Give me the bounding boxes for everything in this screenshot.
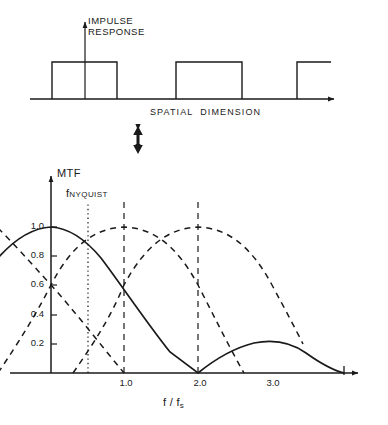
frequency-ratio-main: f / f	[163, 396, 180, 408]
y-tick-label-0-2: 0.2	[22, 337, 44, 348]
spatial-dimension-axis-label: SPATIAL DIMENSION	[150, 107, 261, 117]
impulse-response-line2: RESPONSE	[88, 26, 145, 37]
fourier-transform-double-arrow	[133, 126, 143, 154]
impulse-response-line1: IMPULSE	[88, 15, 133, 26]
mtf-chart-panel	[0, 176, 358, 375]
x-tick-label-2-0: 2.0	[185, 377, 215, 388]
figure-svg	[0, 0, 388, 425]
series-alias-descending-left	[0, 228, 124, 373]
frequency-ratio-subscript: s	[180, 401, 184, 410]
impulse-response-axis-label: IMPULSERESPONSE	[88, 15, 145, 37]
frequency-ratio-axis-label: f / fs	[163, 396, 184, 410]
x-tick-label-3-0: 3.0	[258, 377, 288, 388]
y-tick-label-0-6: 0.6	[22, 278, 44, 289]
series-alias-replica-2	[73, 227, 303, 373]
figure-root: IMPULSERESPONSE SPATIAL DIMENSION MTF fN…	[0, 0, 388, 425]
y-tick-label-1-0: 1.0	[22, 220, 44, 231]
impulse-pulse-3	[297, 62, 331, 99]
impulse-response-panel	[30, 22, 334, 99]
x-tick-label-1-0: 1.0	[111, 377, 141, 388]
impulse-pulse-2	[176, 62, 242, 99]
y-tick-label-0-4: 0.4	[22, 308, 44, 319]
nyquist-subscript: NYQUIST	[69, 190, 107, 199]
nyquist-frequency-label: fNYQUIST	[66, 187, 108, 199]
mtf-axis-label: MTF	[57, 167, 81, 179]
y-tick-label-0-8: 0.8	[22, 249, 44, 260]
